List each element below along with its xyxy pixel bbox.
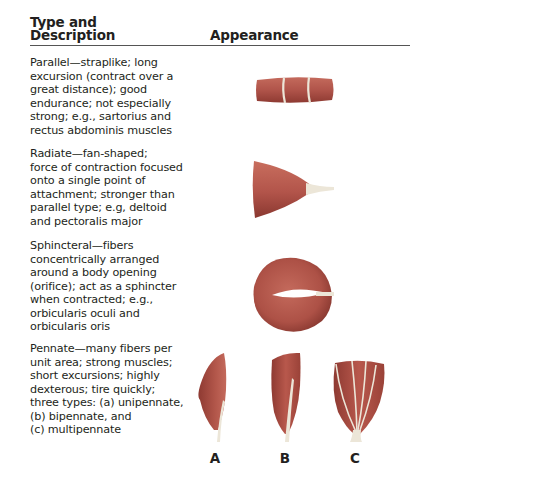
bipennate-belly [271,353,300,434]
description-radiate: Radiate—fan-shaped; force of contraction… [30,147,220,228]
description-line: strong; e.g., sartorius and [30,110,220,124]
pennate-label-b: B [275,450,295,466]
header-rule [30,45,410,46]
description-line: attachment; stronger than [30,188,220,202]
description-line: Pennate—many fibers per [30,342,220,356]
description-line: onto a single point of [30,174,220,188]
description-line: three types: (a) unipennate, [30,396,220,410]
description-parallel: Parallel—straplike; long excursion (cont… [30,56,220,137]
description-line: dexterous; tire quickly; [30,383,220,397]
description-line: Sphincteral—fibers [30,239,220,253]
description-line: (c) multipennate [30,423,220,437]
description-line: concentrically arranged [30,253,220,267]
parallel-muscle-illustration [254,76,336,106]
tendon [316,292,334,296]
description-line: unit area; strong muscles; [30,356,220,370]
description-line: Parallel—straplike; long [30,56,220,70]
pennate-label-a: A [205,450,225,466]
pennate-label-c: C [345,450,365,466]
description-line: when contracted; e.g., [30,293,220,307]
description-line: excursion (contract over a [30,70,220,84]
description-line: (orifice); act as a sphincter [30,280,220,294]
multipennate-muscle-illustration [330,358,388,444]
description-line: endurance; not especially [30,97,220,111]
description-line: parallel type; e.g, deltoid [30,201,220,215]
unipennate-belly [198,353,226,430]
description-line: around a body opening [30,266,220,280]
column-header-type-description: Type and Description [30,16,115,42]
radiate-muscle-illustration [250,158,336,220]
description-line: rectus abdominis muscles [30,124,220,138]
description-line: (b) bipennate, and [30,410,220,424]
description-line: and pectoralis major [30,215,220,229]
description-line: great distance); good [30,83,220,97]
bipennate-muscle-illustration [268,350,304,444]
parallel-muscle-belly [256,77,334,103]
description-sphincteral: Sphincteral—fibers concentrically arrang… [30,239,220,334]
sphincter-muscle-illustration [250,255,338,335]
header-type-line2: Description [30,29,115,42]
description-line: orbicularis oris [30,320,220,334]
description-line: force of contraction focused [30,161,220,175]
unipennate-muscle-illustration [196,350,230,444]
description-line: orbicularis oculi and [30,307,220,321]
description-line: short excursions; highly [30,369,220,383]
radiate-muscle-belly [253,161,312,218]
description-line: Radiate—fan-shaped; [30,147,220,161]
tendon [306,183,334,195]
column-header-appearance: Appearance [210,29,299,42]
description-pennate: Pennate—many fibers per unit area; stron… [30,342,220,437]
